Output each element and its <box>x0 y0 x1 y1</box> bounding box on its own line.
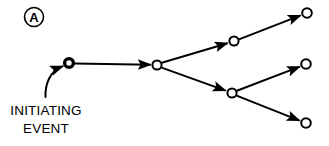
initiating-event-node <box>65 59 74 68</box>
panel-label-badge: A <box>25 8 44 27</box>
middle-outcome-node <box>301 59 311 69</box>
initiating-event-pointer-arrow <box>45 66 62 97</box>
edge-lower-to-middle-outcome <box>237 67 300 91</box>
upper-branch-node <box>229 36 238 45</box>
edge-lower-to-bottom-outcome <box>237 96 300 121</box>
edge-branch-to-lower <box>162 68 226 91</box>
edge-branch-to-upper <box>162 43 228 63</box>
edge-initiating-to-branch <box>74 64 150 65</box>
panel-label-letter: A <box>29 10 39 25</box>
top-outcome-node <box>302 8 312 18</box>
lower-branch-node <box>227 88 236 97</box>
event-tree-figure: A INITIATING EVENT <box>0 0 329 146</box>
caption-line-event: EVENT <box>23 121 69 136</box>
first-branch-node <box>152 60 161 69</box>
edge-upper-to-top-outcome <box>239 15 301 39</box>
bottom-outcome-node <box>301 118 311 128</box>
caption-line-initiating: INITIATING <box>10 103 82 118</box>
event-tree-diagram: A INITIATING EVENT <box>0 0 329 146</box>
